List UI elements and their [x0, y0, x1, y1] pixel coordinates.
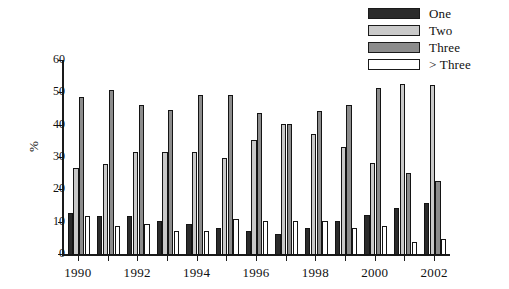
legend-item-label: Three [429, 41, 460, 54]
y-axis-tick-label: 10 [53, 214, 65, 228]
x-axis-tick [345, 255, 346, 261]
bar [222, 158, 227, 255]
bar [192, 152, 197, 255]
chart-figure: OneTwoThree> Three % 0102030405060199019… [0, 0, 509, 289]
x-axis-tick [167, 255, 168, 261]
x-axis-tick-label: 1990 [48, 265, 108, 281]
bar [228, 95, 233, 255]
legend-item: One [368, 6, 503, 21]
x-axis-tick-label: 1992 [107, 265, 167, 281]
x-axis-tick-label: 1994 [167, 265, 227, 281]
bar [139, 105, 144, 255]
y-axis-tick-label-wrap: 10 [5, 211, 65, 229]
y-axis-tick-label-wrap: 30 [5, 146, 65, 164]
bar [186, 224, 191, 255]
bar [103, 164, 108, 255]
bar-group [157, 61, 180, 255]
bar [174, 231, 179, 255]
bar [109, 90, 114, 255]
y-axis-tick-label-wrap: 0 [5, 243, 65, 261]
bar-group [68, 61, 91, 255]
x-axis-tick [197, 255, 198, 261]
bar [79, 97, 84, 255]
bar-group [335, 61, 358, 255]
bar-group [216, 61, 239, 255]
y-axis-tick-label: 40 [53, 117, 65, 131]
bar [435, 181, 440, 255]
bar [341, 147, 346, 255]
bar [257, 113, 262, 255]
bar [430, 85, 435, 255]
x-axis-tick [78, 255, 79, 261]
x-axis-tick [108, 255, 109, 261]
legend-item: Two [368, 23, 503, 38]
bar-group [394, 61, 417, 255]
bar [275, 234, 280, 255]
bar [424, 203, 429, 255]
legend-item-label: Two [429, 24, 453, 37]
bar [352, 228, 357, 255]
x-axis-tick [226, 255, 227, 261]
bar [162, 152, 167, 255]
x-axis-tick-label: 1996 [226, 265, 286, 281]
bar [115, 226, 120, 255]
bar-group [305, 61, 328, 255]
x-axis-tick-label: 2002 [404, 265, 464, 281]
bar [441, 239, 446, 255]
bar [263, 221, 268, 255]
bar [246, 231, 251, 255]
bar [406, 173, 411, 255]
bar [73, 168, 78, 255]
legend-swatch-icon [368, 8, 420, 19]
bar [198, 95, 203, 255]
bar-group [127, 61, 150, 255]
x-axis-tick [137, 255, 138, 261]
x-axis-tick-label: 1998 [285, 265, 345, 281]
y-axis-tick-label-wrap: 40 [5, 114, 65, 132]
y-axis-tick-label-wrap: 50 [5, 81, 65, 99]
bar [322, 221, 327, 255]
bar [233, 219, 238, 255]
bar [311, 134, 316, 255]
bar [281, 124, 286, 255]
bar [346, 105, 351, 255]
plot-area: 0102030405060199019921994199619982000200… [63, 61, 449, 255]
bar [400, 84, 405, 255]
bar [287, 124, 292, 255]
x-axis-tick [256, 255, 257, 261]
bar [370, 163, 375, 255]
x-axis-tick [315, 255, 316, 261]
bar [157, 221, 162, 255]
bar [85, 216, 90, 255]
bar-group [364, 61, 387, 255]
x-axis-tick [404, 255, 405, 261]
x-axis-tick [286, 255, 287, 261]
bar-group [97, 61, 120, 255]
bar [376, 88, 381, 255]
bar-group [275, 61, 298, 255]
bar [144, 224, 149, 255]
legend-item-label: One [429, 7, 451, 20]
bar [412, 242, 417, 255]
legend-swatch-icon [368, 25, 420, 36]
bar [394, 208, 399, 255]
y-axis-tick-label-wrap: 20 [5, 178, 65, 196]
bar [364, 215, 369, 255]
bar-group [186, 61, 209, 255]
y-axis-tick-label: 60 [53, 52, 65, 66]
legend-swatch-icon [368, 42, 420, 53]
bar-group [424, 61, 447, 255]
legend-item: Three [368, 40, 503, 55]
bar [127, 216, 132, 255]
bar [204, 231, 209, 255]
bar [133, 152, 138, 255]
bar [317, 111, 322, 255]
bar [251, 140, 256, 255]
x-axis-tick-label: 2000 [345, 265, 405, 281]
bar [305, 228, 310, 255]
x-axis-tick [434, 255, 435, 261]
bar [216, 228, 221, 255]
bar-group [246, 61, 269, 255]
bar [68, 213, 73, 255]
y-axis-tick-label: 0 [59, 246, 65, 260]
